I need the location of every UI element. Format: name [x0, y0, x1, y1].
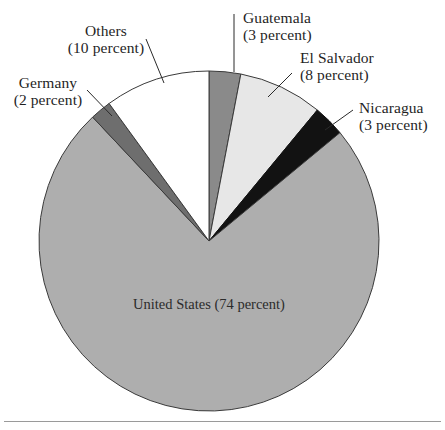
slice-label-guatemala-pct: (3 percent) — [243, 26, 312, 43]
slice-label-el-salvador-pct: (8 percent) — [300, 66, 374, 83]
slice-label-guatemala-name: Guatemala — [243, 9, 312, 26]
slice-label-others: Others (10 percent) — [60, 22, 152, 56]
slice-label-el-salvador-name: El Salvador — [300, 49, 374, 66]
slice-label-others-name: Others — [60, 22, 152, 39]
slice-label-united-states-name: United States — [133, 296, 211, 312]
slice-label-nicaragua: Nicaragua (3 percent) — [359, 99, 428, 133]
pie-slice-group — [39, 71, 379, 411]
slice-label-el-salvador: El Salvador (8 percent) — [300, 49, 374, 83]
slice-label-germany-name: Germany — [2, 74, 94, 91]
slice-label-others-pct: (10 percent) — [60, 39, 152, 56]
slice-label-united-states-pct: (74 percent) — [214, 296, 284, 312]
slice-label-nicaragua-pct: (3 percent) — [359, 116, 428, 133]
slice-label-germany: Germany (2 percent) — [2, 74, 94, 108]
slice-label-guatemala: Guatemala (3 percent) — [243, 9, 312, 43]
pie-chart-svg — [0, 0, 445, 430]
leader-line-nicaragua — [325, 110, 353, 130]
slice-label-nicaragua-name: Nicaragua — [359, 99, 428, 116]
bottom-divider — [4, 421, 441, 422]
slice-label-united-states: United States (74 percent) — [129, 296, 289, 313]
pie-chart-figure: Others (10 percent) Germany (2 percent) … — [0, 0, 445, 430]
slice-label-germany-pct: (2 percent) — [2, 91, 94, 108]
